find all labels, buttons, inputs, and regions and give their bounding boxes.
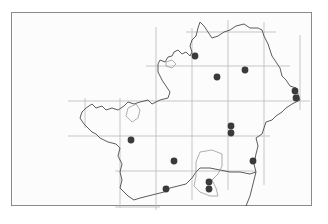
record-dot bbox=[250, 158, 257, 165]
record-dot bbox=[214, 74, 221, 81]
record-dot bbox=[171, 158, 178, 165]
record-dot bbox=[228, 123, 235, 130]
record-dot bbox=[206, 179, 213, 186]
record-dot bbox=[242, 67, 249, 74]
record-dot bbox=[192, 53, 199, 60]
distribution-map bbox=[0, 0, 328, 224]
record-dot bbox=[206, 186, 213, 193]
record-dots bbox=[128, 53, 300, 193]
record-dot bbox=[293, 95, 300, 102]
county-boundary bbox=[80, 22, 300, 206]
water-features bbox=[126, 60, 222, 196]
record-dot bbox=[163, 186, 170, 193]
record-dot bbox=[292, 88, 299, 95]
record-dot bbox=[228, 130, 235, 137]
record-dot bbox=[128, 137, 135, 144]
